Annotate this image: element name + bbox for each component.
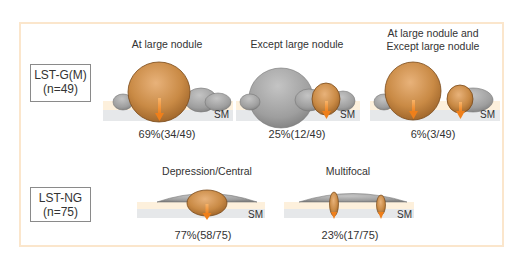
panel-result: 69%(34/49) xyxy=(107,128,227,140)
panel-title-line1: At large nodule and xyxy=(370,27,496,40)
panel-title: At large nodule and Except large nodule xyxy=(370,27,496,53)
panel-result: 77%(58/75) xyxy=(143,229,263,241)
illustration-at-large-nodule: SM xyxy=(103,58,233,124)
layer-label-sm: SM xyxy=(480,109,495,120)
layer-label-sm: SM xyxy=(214,109,229,120)
layer-label-sm: SM xyxy=(248,209,263,220)
group-label-lst-ng: LST-NG (n=75) xyxy=(30,187,91,222)
illustration-multifocal: SM xyxy=(284,182,414,224)
panel-title-line2: Except large nodule xyxy=(370,40,496,53)
layer-label-sm: SM xyxy=(397,209,412,220)
group-name: LST-NG xyxy=(31,191,90,205)
panel-title: Multifocal xyxy=(308,165,388,178)
group-count: (n=75) xyxy=(31,205,90,219)
group-count: (n=49) xyxy=(31,82,90,96)
panel-title: Except large nodule xyxy=(237,38,357,51)
illustration-depression-central: SM xyxy=(137,182,265,224)
panel-result: 23%(17/75) xyxy=(290,229,410,241)
illustration-both: SM xyxy=(370,58,500,124)
panel-title: At large nodule xyxy=(107,38,227,51)
layer-label-sm: SM xyxy=(340,109,355,120)
group-label-lst-gm: LST-G(M) (n=49) xyxy=(30,64,91,102)
group-name: LST-G(M) xyxy=(31,68,90,82)
panel-result: 6%(3/49) xyxy=(372,128,494,140)
panel-title: Depression/Central xyxy=(147,165,267,178)
panel-result: 25%(12/49) xyxy=(237,128,357,140)
illustration-except-large-nodule: SM xyxy=(236,58,360,124)
